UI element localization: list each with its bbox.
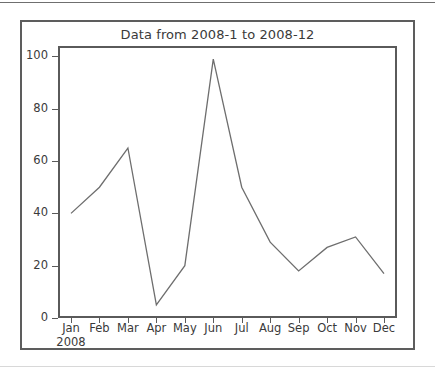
x-axis-tick-sublabel: 2008 (48, 337, 94, 349)
y-axis-tick-label: 40 (4, 207, 48, 219)
x-axis-tick-label: Dec (361, 323, 407, 335)
data-series-line (71, 59, 384, 305)
chart-screenshot: Data from 2008-1 to 2008-12 020406080100… (0, 0, 435, 372)
top-divider (0, 2, 435, 3)
chart-title: Data from 2008-1 to 2008-12 (20, 27, 415, 42)
bottom-divider (0, 366, 435, 367)
line-chart-plot (58, 46, 397, 318)
y-axis-tick-label: 60 (4, 155, 48, 167)
y-axis-tick-label: 0 (4, 312, 48, 324)
y-axis-tick-label: 100 (4, 50, 48, 62)
y-axis-tick-label: 80 (4, 103, 48, 115)
y-axis-tick-mark (52, 318, 58, 319)
y-axis-tick-label: 20 (4, 260, 48, 272)
